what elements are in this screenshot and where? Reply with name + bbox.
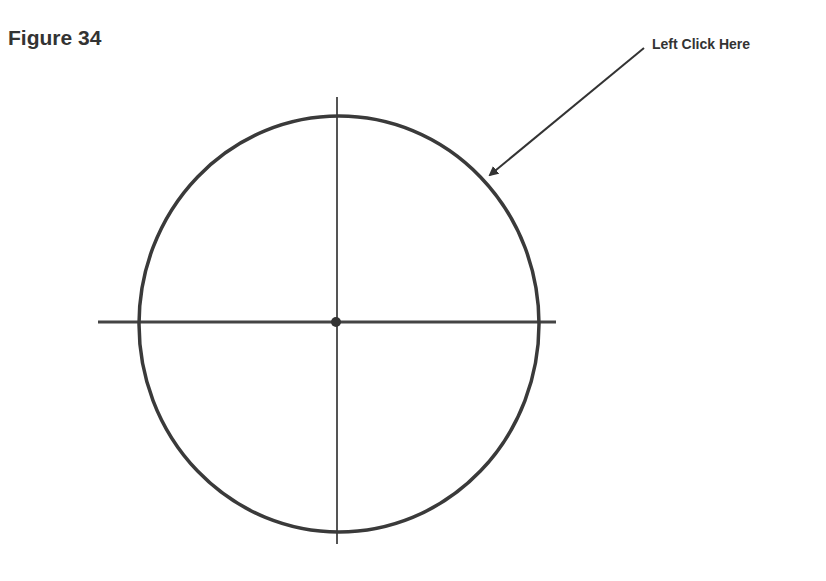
center-point [331, 317, 341, 327]
circle-diagram [0, 0, 826, 581]
callout-arrow [490, 48, 644, 175]
